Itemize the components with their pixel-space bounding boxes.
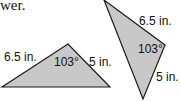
triangle-left-side-a: 6.5 in. — [4, 50, 37, 64]
triangle-left: 6.5 in. 103° 5 in. — [2, 44, 112, 87]
triangle-left-side-b: 5 in. — [89, 55, 112, 69]
triangle-right: 6.5 in. 103° 5 in. — [104, 0, 179, 99]
triangle-right-side-a: 6.5 in. — [139, 14, 172, 28]
triangle-right-side-b: 5 in. — [156, 70, 179, 84]
triangle-right-angle: 103° — [138, 42, 163, 56]
triangle-left-angle: 103° — [54, 55, 79, 69]
triangles-diagram: 6.5 in. 103° 5 in. 6.5 in. 103° 5 in. — [0, 0, 181, 101]
